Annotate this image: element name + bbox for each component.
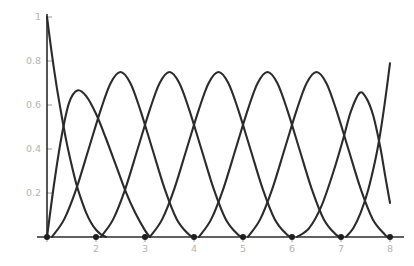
knot-point [93,234,99,240]
spline-curve [52,72,194,237]
y-tick-label: 0.8 [26,55,41,66]
y-tick-label: 0.4 [26,143,41,154]
x-axis-tick-labels: 2345678 [93,243,393,254]
x-tick-label: 4 [191,243,197,254]
x-tick-label: 7 [338,243,344,254]
knot-point [191,234,197,240]
y-axis-tick-labels: 0.20.40.60.81 [26,11,41,198]
spline-curve [150,72,292,237]
knot-point [338,234,344,240]
spline-curve [47,17,106,237]
bspline-basis-chart: 0.20.40.60.81 2345678 [0,0,414,266]
spline-curve [47,90,150,237]
y-tick-label: 1 [35,11,41,22]
knot-point [44,234,50,240]
x-tick-label: 3 [142,243,148,254]
x-tick-label: 8 [387,243,393,254]
x-tick-label: 6 [289,243,295,254]
y-tick-label: 0.2 [26,187,41,198]
spline-curve [101,72,243,237]
y-tick-label: 0.6 [26,99,41,110]
knot-point [289,234,295,240]
knot-point [240,234,246,240]
knot-point [387,234,393,240]
spline-curve [297,92,390,237]
x-tick-label: 5 [240,243,246,254]
chart-plot-area: 0.20.40.60.81 2345678 [0,0,414,266]
knot-point [142,234,148,240]
x-tick-label: 2 [93,243,99,254]
spline-curves-group [47,17,390,237]
